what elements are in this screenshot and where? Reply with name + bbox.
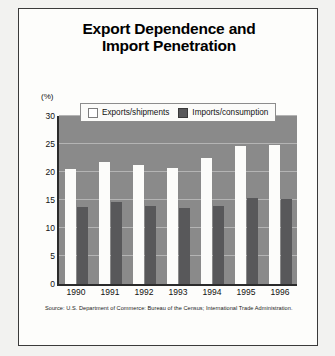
bar-exports-1994 [201,158,212,284]
y-tick-15: 15 [25,195,55,205]
x-label-1993: 1993 [161,287,195,297]
bar-group [93,116,127,284]
legend-item-imports: Imports/consumption [178,108,268,118]
y-tick-5: 5 [25,251,55,261]
y-tick-10: 10 [25,223,55,233]
x-label-1992: 1992 [127,287,161,297]
legend-swatch-exports-icon [88,108,98,118]
x-label-1995: 1995 [229,287,263,297]
bar-exports-1995 [235,146,246,284]
y-tick-25: 25 [25,139,55,149]
legend-item-exports: Exports/shipments [88,108,169,118]
x-label-1996: 1996 [263,287,297,297]
bar-exports-1992 [133,165,144,284]
bar-imports-1991 [111,202,122,284]
bar-group [229,116,263,284]
x-label-1990: 1990 [59,287,93,297]
legend-label-exports: Exports/shipments [102,108,169,117]
bar-exports-1993 [167,168,178,284]
bar-group [263,116,297,284]
bar-imports-1994 [213,206,224,284]
bar-imports-1996 [281,199,292,284]
y-axis-unit-label: (%) [41,92,53,101]
y-axis-line [57,116,59,285]
bar-exports-1996 [269,145,280,284]
x-axis-line [57,284,297,286]
bar-group [161,116,195,284]
bar-imports-1990 [77,207,88,284]
y-tick-20: 20 [25,167,55,177]
bar-imports-1992 [145,206,156,284]
chart-card: Export Dependence and Import Penetration… [18,8,318,346]
y-tick-30: 30 [25,111,55,121]
bar-groups [59,116,297,284]
page-title: Export Dependence and Import Penetration [19,20,319,54]
bar-group [127,116,161,284]
title-line-1: Export Dependence and [19,20,319,37]
source-note: Source: U.S. Department of Commerce: Bur… [45,305,317,311]
chart-legend: Exports/shipments Imports/consumption [80,103,276,122]
y-axis-ticks: 051015202530 [21,116,55,284]
y-tick-0: 0 [25,279,55,289]
bar-imports-1995 [247,198,258,284]
legend-swatch-imports-icon [178,108,188,118]
x-axis-labels: 1990199119921993199419951996 [59,287,297,297]
bar-exports-1991 [99,162,110,284]
legend-label-imports: Imports/consumption [192,108,268,117]
title-line-2: Import Penetration [19,37,319,54]
bar-group [195,116,229,284]
bar-group [59,116,93,284]
bar-imports-1993 [179,208,190,284]
plot-area [59,116,297,284]
x-label-1991: 1991 [93,287,127,297]
bar-exports-1990 [65,169,76,284]
x-label-1994: 1994 [195,287,229,297]
